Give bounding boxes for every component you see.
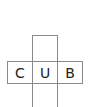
face-label-left: C <box>7 61 33 84</box>
face-bottom <box>32 83 58 107</box>
face-label-center: U <box>32 61 58 84</box>
face-label-right: B <box>57 61 83 84</box>
face-top <box>32 35 58 62</box>
